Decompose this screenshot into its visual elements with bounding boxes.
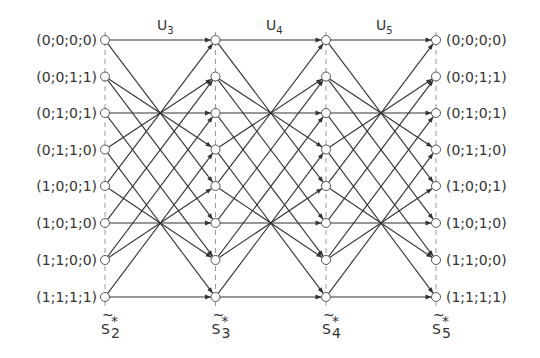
column-label: ~S*2 [101,307,120,341]
state-label-left: (1;0;1;0) [36,215,97,231]
state-node [101,256,110,265]
state-node [432,36,441,45]
svg-text:S: S [101,321,110,337]
state-node [101,145,110,154]
svg-text:S: S [432,321,441,337]
svg-text:S: S [322,321,331,337]
transition-edges [108,40,434,297]
state-node [101,182,110,191]
stage-label: U5 [376,17,393,36]
stage-label: U3 [157,17,174,36]
state-label-right: (1;0;1;0) [446,215,507,231]
state-node [432,256,441,265]
svg-text:2: 2 [111,325,120,341]
state-node [432,72,441,81]
column-guides [105,32,436,306]
state-node [211,219,220,228]
state-node [432,219,441,228]
state-node [322,219,331,228]
state-node [322,109,331,118]
state-nodes [101,36,441,302]
state-node [211,109,220,118]
column-label: ~S*4 [322,307,341,341]
state-label-left: (0;0;1;1) [36,69,97,85]
state-label-left: (1;1;0;0) [36,252,97,268]
state-node [322,182,331,191]
trellis-diagram: (0;0;0;0)(0;0;0;0)(0;0;1;1)(0;0;1;1)(0;1… [0,0,540,358]
state-label-left: (1;1;1;1) [36,289,97,305]
state-node [211,182,220,191]
state-node [432,109,441,118]
state-label-left: (0;1;0;1) [36,105,97,121]
state-node [322,256,331,265]
column-label: ~S*3 [212,307,231,341]
state-node [432,182,441,191]
column-label: ~S*5 [432,307,451,341]
state-node [432,293,441,302]
state-label-right: (0;0;1;1) [446,69,507,85]
stage-label: U4 [266,17,283,36]
state-node [101,109,110,118]
state-node [322,145,331,154]
state-label-right: (0;1;0;1) [446,105,507,121]
svg-text:3: 3 [222,325,231,341]
state-node [101,219,110,228]
state-node [101,293,110,302]
state-node [432,145,441,154]
state-label-left: (0;0;0;0) [36,32,97,48]
state-node [101,72,110,81]
state-label-left: (1;0;0;1) [36,178,97,194]
state-node [322,293,331,302]
state-node [211,293,220,302]
state-node [211,36,220,45]
svg-text:5: 5 [442,325,451,341]
svg-text:S: S [212,321,221,337]
state-node [322,72,331,81]
state-label-right: (1;0;0;1) [446,178,507,194]
state-label-right: (1;1;1;1) [446,289,507,305]
state-node [211,256,220,265]
state-node [101,36,110,45]
state-node [322,36,331,45]
state-label-left: (0;1;1;0) [36,142,97,158]
state-label-right: (1;1;0;0) [446,252,507,268]
state-node [211,72,220,81]
state-node [211,145,220,154]
state-label-right: (0;1;1;0) [446,142,507,158]
state-label-right: (0;0;0;0) [446,32,507,48]
svg-text:4: 4 [332,325,341,341]
